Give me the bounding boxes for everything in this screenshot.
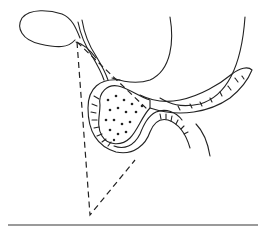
gallbladder [20, 11, 80, 47]
pancreas-head-stipple [105, 95, 144, 142]
duodenum-end [196, 124, 210, 156]
caption-text [0, 228, 266, 233]
anatomical-illustration [0, 0, 266, 233]
stomach-outline-left [112, 17, 172, 82]
dashed-line-top [77, 42, 148, 110]
pancreas-tail [140, 68, 252, 113]
caption-rule [8, 224, 258, 226]
dashed-triangle [77, 42, 135, 215]
pancreas-tail-texture [178, 76, 244, 110]
pancreas-head [99, 86, 150, 144]
bile-duct [78, 22, 104, 80]
